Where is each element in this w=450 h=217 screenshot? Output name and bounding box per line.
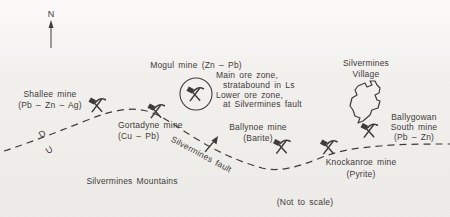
- hammer-and-pick-icon-gortadyne: [147, 103, 164, 117]
- hammer-and-pick-icon-ballygowan: [360, 123, 377, 137]
- silvermines-village-label: Silvermines Village: [343, 58, 389, 79]
- shallee-mine-name: Shallee mine: [18, 89, 82, 100]
- north-label: N: [48, 9, 55, 20]
- silvermines-sketch-map: N Shallee mine (Pb – Zn – Ag) Gortadyne …: [0, 0, 450, 217]
- ballynoe-mine-name: Ballynoe mine: [229, 122, 287, 133]
- knockanroe-mine-minerals: (Pyrite): [326, 169, 397, 181]
- ballygowan-south-mine-label: Ballygowan South mine (Pb – Zn): [391, 112, 438, 142]
- mogul-ore-zone-note: Main ore zone, stratabound in Ls Lower o…: [216, 71, 302, 110]
- ballynoe-mine-label: Ballynoe mine (Barite): [229, 122, 287, 143]
- knockanroe-mine-label: Knockanroe mine (Pyrite): [326, 157, 397, 180]
- hammer-and-pick-icon-mogul: [186, 86, 203, 100]
- mogul-mine-title: Mogul mine (Zn – Pb): [150, 60, 242, 71]
- village-label-line1: Silvermines: [343, 58, 389, 69]
- ballygowan-name-line2: South mine: [391, 122, 438, 132]
- ballygowan-minerals: (Pb – Zn): [391, 132, 438, 142]
- north-arrow: [49, 20, 54, 48]
- hammer-and-pick-icon-shallee: [88, 97, 105, 111]
- shallee-mine-minerals: (Pb – Zn – Ag): [18, 100, 82, 111]
- village-label-line2: Village: [343, 69, 389, 80]
- not-to-scale-note: (Not to scale): [277, 197, 333, 208]
- ballygowan-name-line1: Ballygowan: [391, 112, 438, 122]
- mogul-note-line4: at Silvermines fault: [216, 100, 302, 110]
- silvermines-mountains-label: Silvermines Mountains: [86, 176, 177, 187]
- hammer-and-pick-icon-knockanroe: [320, 139, 337, 153]
- gortadyne-mine-name: Gortadyne mine: [118, 120, 183, 131]
- ballynoe-mine-minerals: (Barite): [229, 133, 287, 144]
- knockanroe-mine-name: Knockanroe mine: [326, 157, 397, 169]
- shallee-mine-label: Shallee mine (Pb – Zn – Ag): [18, 89, 82, 110]
- village-outline: [350, 81, 380, 123]
